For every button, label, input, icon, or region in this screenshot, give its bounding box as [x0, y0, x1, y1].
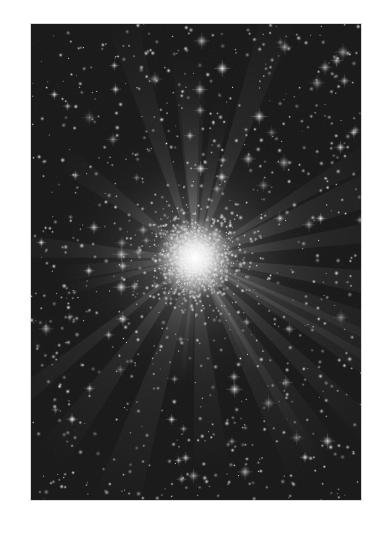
star-cluster-image — [31, 24, 361, 500]
star-cluster-photo — [31, 24, 361, 500]
